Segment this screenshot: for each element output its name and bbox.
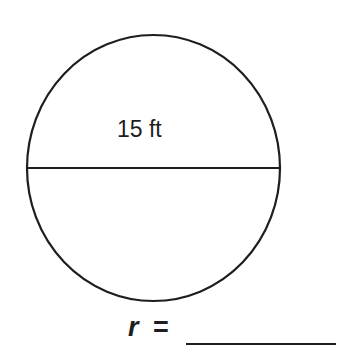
answer-blank[interactable] [186,343,336,345]
radius-variable: r [128,312,139,343]
circle-diagram [0,0,352,355]
equals-sign: = [153,312,169,343]
diameter-label: 15 ft [117,116,162,143]
